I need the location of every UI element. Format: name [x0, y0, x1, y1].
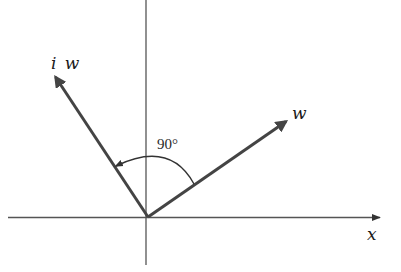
vector-iw [56, 77, 149, 217]
right-angle-arc [116, 156, 194, 184]
vector-w-label: w [292, 103, 307, 123]
vector-iw-label: i w [51, 53, 80, 73]
angle-label: 90° [157, 136, 178, 152]
complex-rotation-diagram: x w i w 90° [0, 0, 401, 272]
x-axis-label: x [367, 224, 377, 244]
vector-iw-label-i: i [51, 53, 56, 73]
vector-iw-label-w: w [65, 53, 80, 73]
